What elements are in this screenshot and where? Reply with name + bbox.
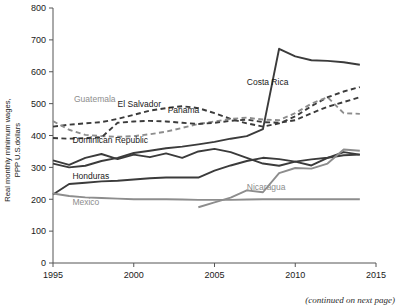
series-label-costa-rica: Costa Rica (247, 77, 289, 87)
series-label-el-salvador: El Salvador (118, 99, 162, 109)
y-tick-label: 400 (31, 131, 46, 141)
series-label-panama: Panama (168, 105, 200, 115)
series-label-nicaragua: Nicaragua (247, 182, 286, 192)
y-tick-label: 600 (31, 67, 46, 77)
series-label-guatemala: Guatemala (74, 94, 116, 104)
x-tick-label: 2005 (204, 270, 224, 280)
series-label-mexico: Mexico (72, 197, 99, 207)
y-tick-label: 200 (31, 195, 46, 205)
series-label-honduras: Honduras (72, 171, 109, 181)
y-axis-title: Real monthly minimum wages,PPP U.S.dolla… (3, 98, 22, 201)
y-tick-label: 300 (31, 163, 46, 173)
y-tick-label: 700 (31, 35, 46, 45)
y-tick-label: 0 (41, 258, 46, 268)
x-tick-label: 2010 (285, 270, 305, 280)
series-label-dominican-republic: Dominican Republic (72, 135, 148, 145)
svg-text:Real monthly minimum wages,: Real monthly minimum wages, (3, 98, 12, 201)
svg-text:PPP U.S.dollars: PPP U.S.dollars (13, 123, 22, 178)
chart-figure: 0100200300400500600700800199520002005201… (0, 0, 399, 307)
x-tick-label: 1995 (43, 270, 63, 280)
y-tick-label: 800 (31, 3, 46, 13)
x-tick-label: 2000 (124, 270, 144, 280)
chart-footnote: (continued on next page) (305, 295, 395, 305)
y-tick-label: 500 (31, 99, 46, 109)
series-line-panama (53, 87, 360, 127)
series-line-dominican-republic (53, 149, 360, 166)
line-chart: 0100200300400500600700800199520002005201… (0, 0, 399, 307)
x-tick-label: 2015 (366, 270, 386, 280)
y-tick-label: 100 (31, 226, 46, 236)
